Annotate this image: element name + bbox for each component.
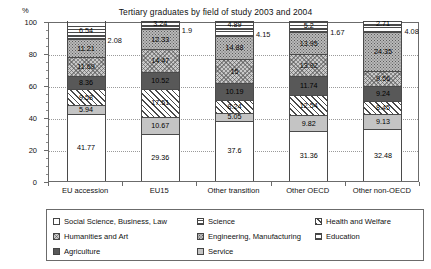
legend-swatch-icon <box>197 248 204 255</box>
x-axis-tick <box>345 182 346 186</box>
bar-segment-value: 11.74 <box>290 83 327 90</box>
bar-segment-value: 37.6 <box>216 148 253 155</box>
bar-segment[interactable]: 17.51 <box>142 89 179 117</box>
legend-label: Service <box>208 247 233 256</box>
bar-column[interactable]: 31.369.8212.5411.7413.9213.955.2 <box>289 21 328 181</box>
bar-column[interactable]: 37.65.058.2410.191514.884.89 <box>215 21 254 181</box>
bar-segment[interactable]: 3.24 <box>142 21 179 26</box>
bar-segment-value: 12.54 <box>290 102 327 109</box>
legend-item[interactable]: Service <box>197 244 301 259</box>
bar-segment[interactable]: 12.33 <box>142 29 179 49</box>
bar-segment[interactable]: 32.48 <box>364 129 401 181</box>
plot-area: 41.775.949.588.3611.6911.216.542.0829.36… <box>48 22 419 182</box>
legend-column: Health and WelfareEducation <box>315 214 391 244</box>
bar-segment-value: 12.33 <box>142 36 179 43</box>
bar-segment[interactable]: 5.94 <box>68 105 105 115</box>
bar-segment-value: 31.36 <box>290 153 327 160</box>
bar-segment[interactable]: 9.82 <box>290 115 327 131</box>
bar-segment[interactable]: 10.67 <box>142 117 179 134</box>
bar-segment[interactable]: 8.24 <box>216 100 253 113</box>
bar-column[interactable]: 29.3610.6717.5110.5214.4712.333.24 <box>141 21 180 181</box>
bar-segment[interactable]: 12.54 <box>290 95 327 115</box>
legend-label: Education <box>326 232 360 241</box>
bar-segment[interactable]: 5.05 <box>216 113 253 121</box>
bar-segment[interactable]: 24.35 <box>364 32 401 71</box>
bar-segment[interactable]: 8.45 <box>364 101 401 115</box>
bar-segment[interactable]: 31.36 <box>290 131 327 181</box>
bar-segment[interactable]: 9.13 <box>364 114 401 129</box>
y-axis-tick-label: 20 <box>11 146 37 155</box>
legend-label: Agriculture <box>64 247 100 256</box>
bar-segment-value-callout: 4.08 <box>404 26 418 35</box>
legend-item[interactable]: Humanities and Art <box>53 229 167 244</box>
bar-segment[interactable]: 41.77 <box>68 114 105 181</box>
legend-swatch-icon <box>315 218 322 225</box>
bar-segment[interactable]: 9.24 <box>364 86 401 101</box>
legend-swatch-icon <box>197 233 204 240</box>
bar-segment[interactable]: 6.54 <box>68 26 105 36</box>
bar-segment[interactable]: 15 <box>216 59 253 83</box>
legend-item[interactable]: Agriculture <box>53 244 167 259</box>
bar-segment[interactable]: 11.21 <box>68 39 105 57</box>
bar-segment[interactable]: 13.92 <box>290 54 327 76</box>
bar-segment-value: 14.47 <box>142 57 179 64</box>
bar-segment[interactable]: 9.58 <box>68 89 105 104</box>
bar-segment-value: 9.58 <box>68 94 105 101</box>
legend-label: Humanities and Art <box>64 232 128 241</box>
legend-label: Science <box>208 217 235 226</box>
legend-column: ScienceEngineering, ManufacturingService <box>197 214 301 259</box>
bar-segment-value-callout: 1.9 <box>182 25 192 34</box>
bar-segment-value: 4.89 <box>216 22 253 29</box>
bar-segment-value-callout: 4.15 <box>256 30 270 39</box>
bar-segment-value: 10.19 <box>216 88 253 95</box>
bar-segment[interactable]: 37.6 <box>216 121 253 181</box>
x-axis-tick <box>419 182 420 186</box>
legend-item[interactable]: Engineering, Manufacturing <box>197 229 301 244</box>
bar-segment-value: 41.77 <box>68 144 105 151</box>
legend-label: Social Science, Business, Law <box>64 217 167 226</box>
bar-segment[interactable]: 29.36 <box>142 134 179 181</box>
bar-segment-value: 9.24 <box>364 90 401 97</box>
bar-segment-value-callout: 1.67 <box>330 28 344 37</box>
legend-item[interactable]: Science <box>197 214 301 229</box>
bar-segment[interactable]: 14.88 <box>216 36 253 60</box>
chart-container: % Tertiary graduates by field of study 2… <box>0 0 431 269</box>
bar-segment[interactable]: 10.52 <box>142 72 179 89</box>
legend-swatch-icon <box>53 248 60 255</box>
legend-item[interactable]: Social Science, Business, Law <box>53 214 167 229</box>
x-axis-label: EU15 <box>150 186 169 195</box>
chart-title: Tertiary graduates by field of study 200… <box>0 7 431 17</box>
y-axis-tick-label: 100 <box>11 18 37 27</box>
bar-segment[interactable] <box>68 36 105 39</box>
bar-segment[interactable]: 5.2 <box>290 21 327 29</box>
bar-column[interactable]: 41.775.949.588.3611.6911.216.54 <box>67 21 106 181</box>
bar-segment[interactable]: 8.36 <box>68 76 105 89</box>
bar-segment-value: 11.21 <box>68 45 105 52</box>
legend-item[interactable]: Health and Welfare <box>315 214 391 229</box>
bar-segment[interactable]: 10.19 <box>216 83 253 99</box>
bar-segment[interactable]: 4.89 <box>216 21 253 29</box>
bar-segment-value: 13.95 <box>290 40 327 47</box>
bar-column[interactable]: 32.489.138.459.249.5624.352.71 <box>363 21 402 181</box>
x-axis-label: Other OECD <box>286 186 329 195</box>
bar-segment-value: 9.56 <box>364 75 401 82</box>
bar-segment[interactable]: 13.95 <box>290 32 327 54</box>
legend-item[interactable]: Education <box>315 229 391 244</box>
bar-segment-value: 11.69 <box>68 64 105 71</box>
x-axis-tick <box>271 182 272 186</box>
x-axis-tick <box>196 182 197 186</box>
x-axis-label: Other non-OECD <box>353 186 411 195</box>
bar-segment[interactable]: 11.69 <box>68 57 105 76</box>
bar-segment[interactable]: 11.74 <box>290 76 327 95</box>
bar-segment-value-callout: 2.08 <box>108 35 122 44</box>
bar-segment-value: 17.51 <box>142 100 179 107</box>
bar-segment[interactable]: 9.56 <box>364 71 401 86</box>
bar-segment[interactable]: 2.71 <box>364 21 401 25</box>
x-axis-labels: EU accessionEU15Other transitionOther OE… <box>48 186 419 200</box>
legend-swatch-icon <box>53 218 60 225</box>
legend-swatch-icon <box>315 233 322 240</box>
bar-segment-value: 3.24 <box>142 21 179 28</box>
bar-segment-value: 14.88 <box>216 44 253 51</box>
bar-segment[interactable]: 14.47 <box>142 49 179 72</box>
bar-segment-value: 10.52 <box>142 77 179 84</box>
